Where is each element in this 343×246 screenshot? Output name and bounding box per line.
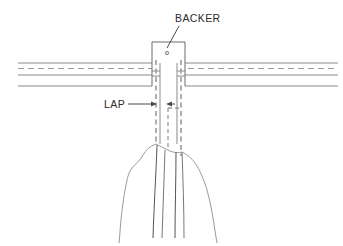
diagram-canvas: o (0, 0, 343, 246)
break-outline-right (182, 152, 217, 243)
technical-drawing-svg: o (0, 0, 343, 246)
horizontal-panel-lines (18, 63, 338, 86)
grain-line-3 (175, 152, 176, 238)
lap-arrow-left-head (166, 102, 172, 107)
backer-callout-group (167, 26, 179, 48)
backer-box-mark: o (165, 49, 169, 56)
break-region-group (119, 144, 217, 243)
grain-line-2 (162, 150, 165, 238)
backer-leader-line (167, 26, 179, 48)
grain-line-1 (153, 145, 157, 238)
backer-label: BACKER (175, 12, 221, 24)
grain-lines-group (153, 145, 184, 238)
break-outline-left (119, 144, 156, 243)
grain-line-4 (182, 152, 184, 238)
backer-box-group: o (152, 42, 185, 86)
break-outline-top-left (156, 144, 182, 153)
lap-dimension-arrows (128, 102, 175, 107)
lap-label: LAP (104, 98, 125, 110)
